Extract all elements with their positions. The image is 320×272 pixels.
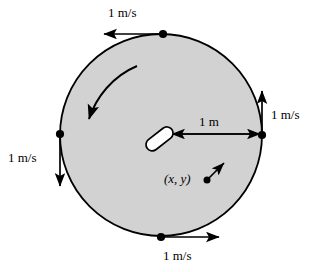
diagram-canvas bbox=[0, 0, 320, 272]
radius-label: 1 m bbox=[199, 115, 219, 128]
physics-diagram: 1 m/s 1 m/s 1 m/s 1 m/s 1 m (x, y) bbox=[0, 0, 320, 272]
right-speed-label: 1 m/s bbox=[271, 108, 300, 121]
left-speed-label: 1 m/s bbox=[8, 151, 37, 164]
top-rim-point bbox=[159, 30, 167, 38]
bottom-speed-label: 1 m/s bbox=[163, 249, 192, 262]
bottom-rim-point bbox=[157, 233, 165, 241]
right-rim-point bbox=[258, 131, 266, 139]
top-speed-label: 1 m/s bbox=[108, 6, 137, 19]
xy-point-label: (x, y) bbox=[164, 172, 191, 185]
left-rim-point bbox=[56, 130, 64, 138]
